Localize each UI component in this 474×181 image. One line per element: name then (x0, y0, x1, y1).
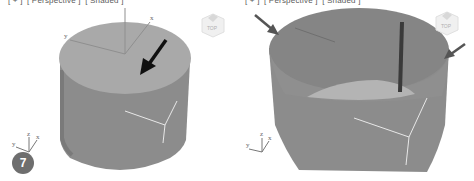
svg-text:z: z (260, 130, 263, 138)
svg-text:y: y (12, 140, 16, 148)
cylinder-inner-wall (269, 8, 449, 92)
svg-text:x: x (150, 14, 154, 22)
axis-tripod-icon: z x y (12, 130, 40, 152)
annotation-arrow-left (255, 15, 279, 35)
svg-text:y: y (64, 32, 68, 40)
svg-text:x: x (36, 133, 40, 141)
svg-text:y: y (246, 141, 250, 149)
svg-text:ТОР: ТОР (441, 23, 452, 29)
axis-tripod-icon: z x y (246, 130, 272, 152)
viewport-right[interactable]: [ + ] [ Perspective ] [ Shaded ] (237, 0, 474, 181)
viewcube-icon[interactable]: ТОР (432, 8, 462, 38)
viewcube-icon[interactable]: ТОР (198, 10, 228, 40)
step-number-badge: 7 (12, 152, 34, 174)
viewport-left[interactable]: [ + ] [ Perspective ] [ Shaded ] y x z x… (0, 0, 237, 181)
svg-text:x: x (268, 134, 272, 142)
svg-text:ТОР: ТОР (207, 25, 218, 31)
svg-text:z: z (27, 130, 30, 138)
